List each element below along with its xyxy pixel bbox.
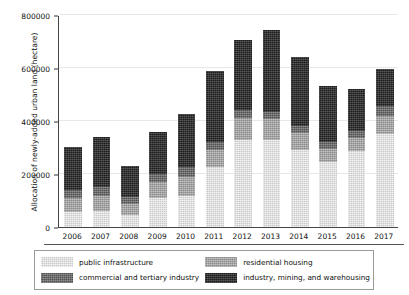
- bar-segment: [263, 140, 281, 227]
- gridline: [59, 14, 398, 15]
- y-axis-tick-label: 800000: [0, 12, 50, 21]
- x-axis-tick-label: 2015: [318, 232, 337, 241]
- bar-segment: [206, 71, 224, 142]
- x-axis-tick-label: 2009: [148, 232, 167, 241]
- legend-item-public-infrastructure: public infrastructure: [41, 257, 199, 267]
- bar-segment: [149, 132, 167, 174]
- bar-segment: [64, 212, 82, 227]
- bar-segment: [291, 126, 309, 133]
- legend-item-industry-mining-warehousing: industry, mining, and warehousing: [205, 273, 370, 283]
- bar-segment: [234, 110, 252, 118]
- bar-2016[interactable]: [348, 89, 366, 227]
- legend-item-residential-housing: residential housing: [205, 257, 370, 267]
- bar-segment: [376, 134, 394, 227]
- bar-segment: [64, 190, 82, 198]
- bar-segment: [348, 138, 366, 151]
- legend-swatch-industry-mining-warehousing: [205, 273, 237, 283]
- bar-segment: [263, 112, 281, 119]
- bar-segment: [64, 198, 82, 212]
- bar-segment: [121, 204, 139, 215]
- bar-segment: [319, 149, 337, 162]
- bar-segment: [376, 69, 394, 106]
- y-axis-tick-label: 200000: [0, 171, 50, 180]
- y-axis-tick-label: 600000: [0, 65, 50, 74]
- bar-segment: [206, 142, 224, 150]
- x-axis-tick-label: 2007: [91, 232, 110, 241]
- bar-segment: [64, 147, 82, 189]
- legend-label-residential-housing: residential housing: [243, 258, 312, 267]
- bar-segment: [93, 187, 111, 196]
- bar-2009[interactable]: [149, 132, 167, 227]
- bar-segment: [319, 142, 337, 149]
- bar-segment: [206, 167, 224, 227]
- bar-segment: [291, 57, 309, 125]
- x-axis-tick-label: 2010: [176, 232, 195, 241]
- legend-label-public-infrastructure: public infrastructure: [79, 258, 153, 267]
- bar-segment: [234, 140, 252, 227]
- bar-segment: [348, 131, 366, 138]
- bar-2012[interactable]: [234, 40, 252, 227]
- gridline: [59, 67, 398, 68]
- x-axis-tick-label: 2006: [63, 232, 82, 241]
- bar-segment: [291, 133, 309, 150]
- bar-2011[interactable]: [206, 71, 224, 227]
- bar-segment: [149, 174, 167, 182]
- bar-segment: [348, 151, 366, 227]
- bar-segment: [121, 166, 139, 197]
- bar-segment: [178, 114, 196, 166]
- bar-2010[interactable]: [178, 114, 196, 227]
- x-axis-tick-label: 2017: [374, 232, 393, 241]
- bar-segment: [178, 167, 196, 177]
- bar-segment: [178, 196, 196, 227]
- y-axis-tick-label: 0: [0, 224, 50, 233]
- bar-segment: [263, 119, 281, 139]
- bar-2006[interactable]: [64, 147, 82, 227]
- bar-segment: [234, 118, 252, 139]
- bar-2007[interactable]: [93, 137, 111, 227]
- bar-segment: [319, 86, 337, 142]
- x-axis-tick-label: 2014: [289, 232, 308, 241]
- x-axis-rule: [44, 244, 404, 245]
- chart-root: Allocation of newly-added urban land (he…: [0, 0, 409, 295]
- bar-segment: [206, 150, 224, 167]
- bar-2015[interactable]: [319, 86, 337, 227]
- bar-2013[interactable]: [263, 30, 281, 227]
- bar-2008[interactable]: [121, 166, 139, 227]
- bar-segment: [178, 177, 196, 196]
- plot-inner: [59, 16, 398, 227]
- bar-segment: [149, 198, 167, 227]
- x-axis-tick-label: 2011: [204, 232, 223, 241]
- legend-swatch-public-infrastructure: [41, 257, 73, 267]
- x-axis-labels: 2006200720082009201020112012201320142015…: [58, 229, 398, 243]
- bar-segment: [291, 150, 309, 227]
- bar-segment: [93, 211, 111, 227]
- x-axis-tick-label: 2008: [119, 232, 138, 241]
- bar-segment: [93, 137, 111, 186]
- legend-swatch-residential-housing: [205, 257, 237, 267]
- y-axis-tick-label: 400000: [0, 118, 50, 127]
- legend-swatch-commercial-tertiary-industry: [41, 273, 73, 283]
- legend-label-industry-mining-warehousing: industry, mining, and warehousing: [243, 273, 370, 282]
- bar-segment: [149, 182, 167, 198]
- bar-segment: [234, 40, 252, 110]
- bar-segment: [348, 89, 366, 131]
- bar-2017[interactable]: [376, 69, 394, 227]
- chart-legend: public infrastructure residential housin…: [34, 250, 374, 290]
- legend-item-commercial-tertiary-industry: commercial and tertiary industry: [41, 273, 199, 283]
- bar-2014[interactable]: [291, 57, 309, 227]
- bar-segment: [93, 196, 111, 211]
- bar-segment: [319, 162, 337, 227]
- bar-segment: [376, 116, 394, 135]
- x-axis-tick-label: 2012: [233, 232, 252, 241]
- bar-segment: [121, 215, 139, 227]
- legend-label-commercial-tertiary-industry: commercial and tertiary industry: [79, 273, 199, 282]
- bar-segment: [121, 197, 139, 204]
- x-axis-tick-label: 2016: [346, 232, 365, 241]
- bar-segment: [263, 30, 281, 112]
- plot-area: [58, 16, 398, 228]
- x-axis-tick-label: 2013: [261, 232, 280, 241]
- bar-segment: [376, 106, 394, 115]
